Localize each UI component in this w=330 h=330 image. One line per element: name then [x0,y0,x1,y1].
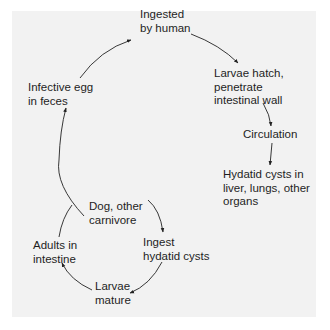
node-larvae-mature: Larvae mature [95,280,131,307]
node-circulation: Circulation [243,128,297,142]
arrow-ingested-to-hatch [191,34,238,63]
node-larvae-hatch: Larvae hatch, penetrate intestinal wall [214,67,284,108]
arrow-adults-to-dog [59,205,72,237]
node-hydatid-cysts: Hydatid cysts in liver, lungs, other org… [223,168,310,209]
node-ingest-cysts: Ingest hydatid cysts [143,236,209,263]
node-infective-egg: Infective egg in feces [28,81,93,108]
arrow-dog-to-egg [59,108,84,216]
arrow-ingest-to-mature [130,262,162,293]
node-dog: Dog, other carnivore [89,200,143,227]
arrow-dog-to-ingest [148,200,163,232]
arrow-mature-to-adults [62,263,92,290]
arrow-circulation-to-hydatid [270,143,272,165]
cycle-arrows [0,0,330,330]
node-ingested: Ingested by human [140,8,191,35]
arrow-egg-to-ingested [80,40,131,78]
node-adults: Adults in intestine [33,239,77,266]
